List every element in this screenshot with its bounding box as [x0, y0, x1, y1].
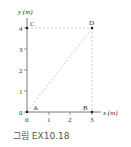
x-ticks [49, 112, 92, 115]
point-d-label: D [89, 19, 94, 27]
point-a-label: A [33, 104, 38, 112]
y-ticks [24, 28, 27, 112]
y-tick-label-0: 0 [19, 109, 23, 117]
x-tick-label-2: 2 [68, 116, 72, 124]
dashed-line-ad [27, 28, 92, 112]
point-a-marker [26, 111, 29, 114]
y-tick-label-1: 1 [19, 88, 23, 96]
point-c-marker [26, 27, 29, 30]
figure-caption: 그림 EX10.18 [13, 129, 69, 142]
point-d-marker [91, 27, 94, 30]
x-tick-label-3: 3 [90, 116, 94, 124]
y-tick-label-4: 4 [19, 25, 23, 33]
point-b-marker [91, 111, 94, 114]
coordinate-diagram: 4 3 2 1 0 0 1 2 3 y (m) x (m) C D A B [0, 0, 131, 147]
y-tick-label-2: 2 [19, 67, 23, 75]
y-axis-label: y (m) [17, 8, 33, 16]
x-tick-label-1: 1 [47, 116, 51, 124]
x-tick-label-0: 0 [25, 116, 29, 124]
point-b-label: B [83, 104, 88, 112]
point-c-label: C [30, 20, 35, 28]
x-axis-label: x (m) [102, 109, 118, 117]
y-tick-label-3: 3 [19, 46, 23, 54]
dashed-lines [27, 28, 92, 112]
